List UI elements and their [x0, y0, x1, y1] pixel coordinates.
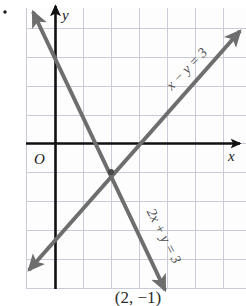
y-axis-label: y [60, 7, 69, 23]
intersection-point-marker [108, 169, 114, 175]
solution-caption: (2, −1) [115, 288, 161, 306]
origin-label: O [34, 151, 45, 167]
x-axis-label: x [227, 148, 235, 164]
figure-container: y x O x − y = 3 2x + y = 3 (2, −1) [0, 0, 246, 306]
bullet-marker-icon [3, 10, 6, 13]
coordinate-graph: y x O x − y = 3 2x + y = 3 (2, −1) [0, 0, 246, 306]
